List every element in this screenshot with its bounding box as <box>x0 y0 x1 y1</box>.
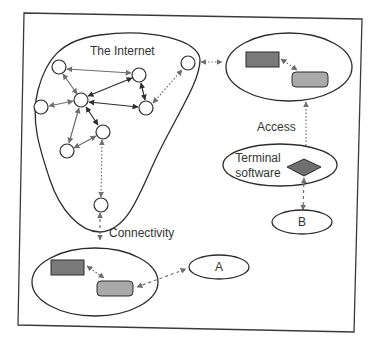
internet-node <box>132 68 146 82</box>
local-network <box>32 248 158 316</box>
internet-node-hub <box>74 93 88 107</box>
connectivity-label: Connectivity <box>109 226 174 240</box>
local-device-dark <box>51 260 84 275</box>
internet-label: The Internet <box>90 44 155 58</box>
internet-node <box>60 144 74 158</box>
access-device-light <box>292 72 328 87</box>
access-device-dark <box>246 52 279 67</box>
access-label: Access <box>257 120 296 134</box>
terminal-label-line1: Terminal <box>235 151 280 165</box>
edge-arrow <box>49 101 73 106</box>
edge-arrow <box>63 74 77 94</box>
internet-access-diagram: The Internet Access Terminal software <box>0 0 372 343</box>
node-a-label: A <box>215 260 223 274</box>
edge-dotted-arrow <box>281 59 297 70</box>
internet-node <box>139 101 153 115</box>
edge-dotted-arrow <box>101 140 102 197</box>
node-b-label: B <box>298 215 306 229</box>
edge-arrow <box>69 108 79 143</box>
internet-node-gateway <box>94 198 108 212</box>
local-device-light <box>97 281 133 296</box>
edge-arrow <box>67 69 131 73</box>
internet-node <box>52 60 66 74</box>
edge-dashed-arrow <box>137 269 186 287</box>
edge-arrow <box>86 107 98 125</box>
edge-arrow <box>74 136 96 148</box>
internet-node <box>34 100 48 114</box>
terminal-label-line2: software <box>235 166 281 180</box>
edge-dotted-arrow <box>153 70 182 103</box>
edge-arrow <box>141 83 145 100</box>
edge-arrow <box>88 78 132 96</box>
internet-node <box>96 125 110 139</box>
edge-dotted-arrow <box>87 266 104 278</box>
edge-arrow <box>89 102 138 107</box>
access-network <box>226 33 352 101</box>
internet-node <box>181 56 195 70</box>
